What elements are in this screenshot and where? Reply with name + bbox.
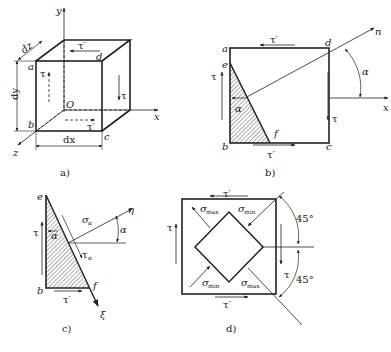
svg-text:b: b <box>28 119 34 130</box>
svg-text:τ′: τ′ <box>87 121 96 132</box>
svg-text:τ′: τ′ <box>63 294 72 305</box>
svg-text:f: f <box>92 280 99 291</box>
svg-text:α: α <box>88 219 92 226</box>
svg-text:α: α <box>120 224 127 235</box>
panel-b <box>222 28 388 145</box>
svg-text:τ: τ <box>332 113 338 124</box>
svg-text:τ: τ <box>284 269 290 280</box>
caption-a: a) <box>60 167 70 178</box>
svg-text:a: a <box>28 61 34 72</box>
svg-text:O: O <box>66 99 74 110</box>
sigma-min-top-right: σ min <box>238 203 256 215</box>
svg-text:τ: τ <box>211 71 217 82</box>
svg-text:b: b <box>222 141 228 152</box>
svg-text:min: min <box>244 208 256 215</box>
svg-text:x: x <box>154 111 160 122</box>
svg-text:α: α <box>235 103 242 114</box>
svg-text:τ′: τ′ <box>78 40 87 51</box>
svg-text:min: min <box>208 282 220 289</box>
svg-text:c: c <box>326 141 332 152</box>
sigma-max-top-left: σ max <box>200 203 219 215</box>
panel-a <box>14 8 158 150</box>
svg-text:α: α <box>88 254 92 261</box>
svg-text:α: α <box>362 66 369 77</box>
sigma-min-bottom-left: σ min <box>202 277 220 289</box>
svg-text:τ′: τ′ <box>223 188 232 199</box>
svg-text:d: d <box>325 37 331 48</box>
sigma-alpha-label: σ α <box>82 214 92 226</box>
svg-text:α: α <box>51 230 58 241</box>
svg-text:max: max <box>247 282 260 289</box>
svg-text:d: d <box>96 51 102 62</box>
svg-text:45°: 45° <box>296 274 314 285</box>
svg-text:f: f <box>273 128 280 139</box>
svg-text:y: y <box>55 5 62 16</box>
svg-text:e: e <box>37 191 43 202</box>
svg-text:dz: dz <box>18 39 35 55</box>
svg-text:τ: τ <box>33 227 39 238</box>
svg-text:τ: τ <box>167 222 173 233</box>
svg-text:ξ: ξ <box>100 309 106 320</box>
svg-text:b: b <box>37 285 43 296</box>
svg-text:τ′: τ′ <box>267 149 276 160</box>
svg-text:τ: τ <box>40 68 46 79</box>
svg-text:a: a <box>222 43 228 54</box>
stress-element-figure: y x z O dz dy dx a b c d τ′ τ τ τ′ a) a … <box>0 0 391 352</box>
svg-text:x: x <box>383 102 389 113</box>
svg-text:c: c <box>104 131 110 142</box>
caption-c: c) <box>62 323 72 334</box>
tau-alpha-label: τ α <box>82 249 92 261</box>
svg-text:45°: 45° <box>296 213 314 224</box>
svg-text:dy: dy <box>9 88 20 100</box>
svg-text:τ′: τ′ <box>270 34 279 45</box>
panel-a-labels: y x z O dz dy dx a b c d τ′ τ τ τ′ a) <box>9 5 160 178</box>
svg-text:τ′: τ′ <box>223 299 232 310</box>
svg-text:η: η <box>128 204 134 215</box>
svg-text:n: n <box>375 26 381 37</box>
svg-text:max: max <box>206 208 219 215</box>
svg-text:τ: τ <box>121 90 127 101</box>
caption-d: d) <box>226 323 236 334</box>
sigma-max-bottom-right: σ max <box>241 277 260 289</box>
caption-b: b) <box>265 167 275 178</box>
svg-text:dx: dx <box>63 134 75 145</box>
svg-text:z: z <box>12 147 19 158</box>
svg-text:e: e <box>222 59 228 70</box>
